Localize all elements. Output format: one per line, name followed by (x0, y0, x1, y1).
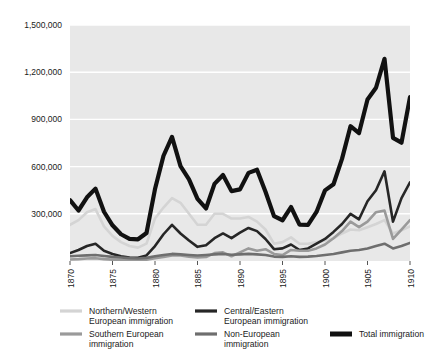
x-tick-label: 1875 (108, 269, 118, 288)
legend-label: Total immigration (359, 329, 424, 339)
x-tick-label: 1890 (236, 269, 246, 288)
x-tick-label: 1885 (193, 269, 203, 288)
y-tick-label: 1,200,000 (24, 67, 62, 77)
legend-label-line2: immigration (224, 339, 269, 349)
plot-area-background (70, 25, 410, 261)
chart-canvas: 1,500,0001,200,000900,000600,000300,000 … (0, 0, 429, 358)
immigration-line-chart: 1,500,0001,200,000900,000600,000300,000 … (0, 0, 429, 358)
y-tick-label: 300,000 (31, 209, 62, 219)
x-tick-label: 1880 (151, 269, 161, 288)
legend-label: Central/Eastern (224, 306, 284, 316)
legend-label: Non-European (224, 329, 280, 339)
y-tick-label: 900,000 (31, 114, 62, 124)
legend-label-line2: immigration (89, 339, 134, 349)
x-tick-label: 1910 (406, 269, 416, 288)
legend-label: Northern/Western (89, 306, 157, 316)
x-tick-label: 1905 (363, 269, 373, 288)
legend-label: Southern European (89, 329, 164, 339)
y-tick-label: 600,000 (31, 162, 62, 172)
x-tick-label: 1900 (321, 269, 331, 288)
x-tick-label: 1895 (278, 269, 288, 288)
y-tick-label: 1,500,000 (24, 20, 62, 30)
legend-label-line2: European immigration (89, 316, 173, 326)
legend-label-line2: European immigration (224, 316, 308, 326)
x-tick-label: 1870 (66, 269, 76, 288)
